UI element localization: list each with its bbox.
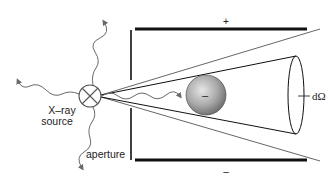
aperture-label: aperture [86, 148, 125, 160]
ray-left [18, 81, 79, 95]
top-plate-sign: + [223, 16, 229, 27]
particle-charge: – [202, 89, 209, 101]
xray-source-icon [79, 85, 101, 107]
ray-up [92, 22, 106, 85]
xray-scattering-diagram: – X–ray source aperture dΩ + – [0, 0, 334, 184]
source-label-line2: source [41, 115, 73, 127]
bottom-plate-sign: – [223, 166, 229, 177]
solid-angle-label: dΩ [312, 90, 326, 102]
solid-angle-ellipse [288, 56, 304, 134]
